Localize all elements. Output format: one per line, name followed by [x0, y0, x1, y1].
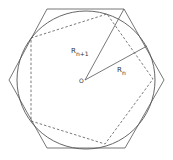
- label-r-n-plus-1: Rn+1: [71, 47, 89, 57]
- inscribed-pentagon: [31, 14, 153, 144]
- label-center-o: O: [79, 77, 84, 84]
- polygon-circle-diagram: Rn+1 Rn O: [0, 0, 173, 160]
- label-r-n: Rn: [117, 66, 126, 76]
- circle: [17, 11, 155, 149]
- outer-hexagon: [9, 9, 164, 148]
